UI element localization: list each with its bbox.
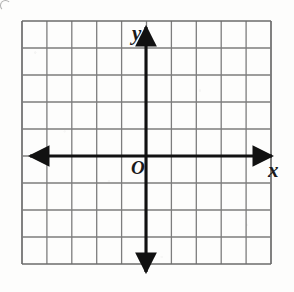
coordinate-plane-figure: y x O bbox=[0, 0, 294, 292]
grid-and-axes bbox=[0, 0, 294, 292]
origin-label: O bbox=[131, 158, 145, 177]
x-axis-label: x bbox=[268, 160, 279, 181]
y-axis-label: y bbox=[132, 23, 141, 44]
